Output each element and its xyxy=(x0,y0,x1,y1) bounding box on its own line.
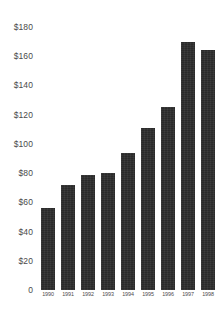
bar xyxy=(41,208,55,290)
y-axis: $180$160$140$120$100$80$60$40$200 xyxy=(0,0,33,329)
bar-column xyxy=(161,0,175,290)
bar xyxy=(81,175,95,290)
bars-layer xyxy=(38,0,223,290)
x-axis-tick-label: 1990 xyxy=(41,292,55,297)
x-axis: 199019911992199319941995199619971998 xyxy=(38,292,223,297)
y-axis-tick-label: $160 xyxy=(0,52,33,61)
y-axis-tick-label: $180 xyxy=(0,23,33,32)
y-axis-tick-label: $80 xyxy=(0,169,33,178)
bar-column xyxy=(201,0,215,290)
x-axis-tick-label: 1994 xyxy=(121,292,135,297)
x-axis-tick-label: 1992 xyxy=(81,292,95,297)
x-axis-tick-label: 1993 xyxy=(101,292,115,297)
y-axis-tick-label: $100 xyxy=(0,140,33,149)
bar xyxy=(141,128,155,290)
bar-column xyxy=(101,0,115,290)
y-axis-tick-label: $140 xyxy=(0,81,33,90)
bar xyxy=(181,42,195,290)
bar-chart: $180$160$140$120$100$80$60$40$200 199019… xyxy=(0,0,223,329)
y-axis-tick-label: $60 xyxy=(0,198,33,207)
bar xyxy=(201,50,215,290)
x-axis-tick-label: 1998 xyxy=(201,292,215,297)
bar xyxy=(121,153,135,290)
x-axis-tick-label: 1997 xyxy=(181,292,195,297)
y-axis-tick-label: $40 xyxy=(0,227,33,236)
x-axis-tick-label: 1995 xyxy=(141,292,155,297)
bar-column xyxy=(141,0,155,290)
bar-column xyxy=(61,0,75,290)
bar xyxy=(101,173,115,290)
plot-area: 199019911992199319941995199619971998 xyxy=(38,0,223,329)
x-axis-tick-label: 1991 xyxy=(61,292,75,297)
bar xyxy=(161,107,175,290)
y-axis-tick-label: $120 xyxy=(0,110,33,119)
bar-column xyxy=(41,0,55,290)
x-axis-tick-label: 1996 xyxy=(161,292,175,297)
y-axis-tick-label: $20 xyxy=(0,257,33,266)
bar xyxy=(61,185,75,290)
bar-column xyxy=(121,0,135,290)
bar-column xyxy=(181,0,195,290)
y-axis-tick-label: 0 xyxy=(0,286,33,295)
bar-column xyxy=(81,0,95,290)
